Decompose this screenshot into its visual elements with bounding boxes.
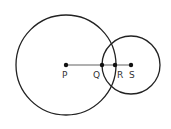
point-r (113, 63, 117, 67)
label-r: R (117, 70, 123, 80)
label-s: S (129, 70, 135, 80)
point-s (129, 63, 133, 67)
geometry-diagram: P Q R S (0, 0, 171, 129)
label-q: Q (93, 70, 100, 80)
label-p: P (62, 70, 68, 80)
point-p (64, 63, 68, 67)
point-q (100, 63, 104, 67)
